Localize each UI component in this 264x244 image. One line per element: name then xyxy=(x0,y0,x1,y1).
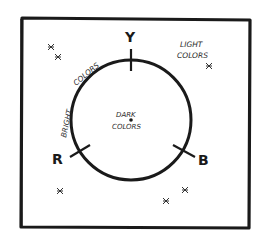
label-yellow: Y xyxy=(124,29,136,45)
label-red: R xyxy=(52,151,63,167)
star-mark-icon xyxy=(163,198,169,204)
bright-colors-label: COLORS xyxy=(72,61,102,88)
star-mark-icon xyxy=(48,44,54,50)
star-mark-icon xyxy=(57,188,63,194)
label-blue: B xyxy=(198,152,209,168)
color-wheel-diagram: Y R B DARK COLORS LIGHT COLORS BRIGHT CO… xyxy=(0,0,264,244)
star-mark-icon xyxy=(182,187,188,193)
star-mark-icon xyxy=(206,63,212,69)
light-label: LIGHT xyxy=(180,40,204,49)
star-mark-icon xyxy=(55,54,61,60)
center-label-colors: COLORS xyxy=(112,123,141,131)
center-label-dark: DARK xyxy=(116,111,137,119)
light-colors-label: COLORS xyxy=(177,51,208,60)
red-tick xyxy=(70,145,90,157)
